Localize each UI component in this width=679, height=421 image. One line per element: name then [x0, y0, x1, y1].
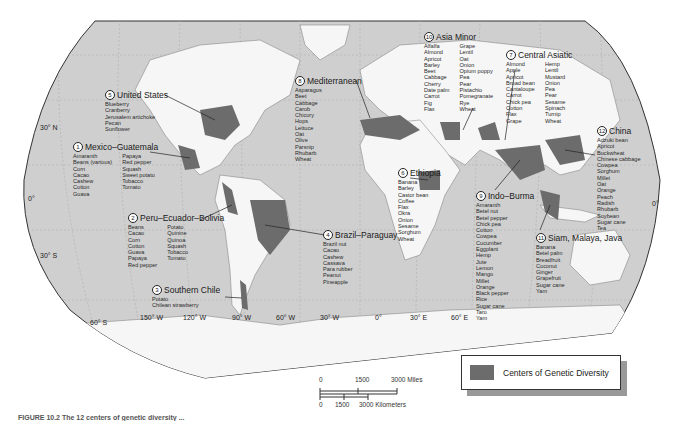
crop-name: Flax [424, 106, 450, 112]
crop-list: GrapeLentilOatOnionOpium poppyPeaPearPis… [460, 43, 494, 112]
figure-caption: FIGURE 10.2 The 12 centers of genetic di… [18, 414, 185, 421]
lon-60w-label: 60° W [276, 314, 295, 321]
center-indo-burma: 9Indo–Burma AmaranthBetel nutBetel peppe… [476, 191, 534, 322]
center-siam-malaya-java: 11Siam, Malaya, Java BananaBetel palmBre… [536, 233, 622, 294]
lat-30s-label: 30° S [40, 252, 57, 259]
crop-name: Red pepper [128, 262, 157, 268]
crop-list: BeansCacaoCornCottonGuavaPapayaRed peppe… [128, 224, 157, 268]
crop-name: Tea [597, 225, 641, 231]
center-number-badge: 6 [398, 168, 408, 178]
crop-name: Pineapple [323, 279, 397, 285]
crop-list: AlmondAppleApricotBroad beanCantaloupeCa… [506, 61, 535, 124]
center-number-badge: 7 [506, 50, 516, 60]
center-number-badge: 5 [105, 90, 115, 100]
crop-list: HempLentilMustardOnionPeaPearSesameSpina… [545, 61, 566, 124]
crop-name: Wheat [398, 236, 441, 242]
crop-list: Adzuki beanApricotBuckwheatChinese cabba… [597, 137, 641, 231]
center-peru-ecuador-bolivia: 2Peru–Ecuador–Bolivia BeansCacaoCornCott… [128, 213, 224, 268]
crop-name: Tomato [167, 255, 188, 261]
crop-list: PotatoChilean strawberry [152, 296, 220, 309]
center-mediterranean: 8Mediterranean AsparagusBeetCabbageCarob… [295, 76, 362, 163]
lat-30n-label: 30° N [40, 124, 58, 131]
lon-60e-label: 60° E [451, 314, 468, 321]
crop-name: Guava [73, 191, 112, 197]
crop-name: Wheat [545, 118, 566, 124]
center-asia-minor: 10Asia Minor AlfalfaAlmondApricotBarleyB… [424, 32, 493, 112]
lat-60s-label: 60° S [90, 319, 107, 326]
center-ethiopia: 6Ethiopia BananaBarleyCastor beanCoffeeF… [398, 168, 441, 242]
center-central-asiatic: 7Central Asiatic AlmondAppleApricotBroad… [506, 50, 572, 124]
crop-name: Beans (various) [73, 159, 112, 165]
crop-name: Red pepper [122, 159, 155, 165]
crop-name: Wheat [295, 156, 362, 162]
crop-list: BananaBetel palmBreadfruitCoconutGingerG… [536, 244, 622, 294]
crop-name: Pomegranate [460, 93, 494, 99]
center-number-badge: 1 [73, 142, 83, 152]
center-mexico-guatemala: 1Mexico–Guatemala AmaranthBeans (various… [73, 142, 158, 197]
scale-bar-graphic [319, 388, 399, 400]
lon-30w-label: 30° W [320, 314, 339, 321]
crop-name: Wheat [460, 106, 494, 112]
crop-name: Tomato [122, 184, 155, 190]
lat-0-right-label: 0° [652, 200, 659, 207]
center-brazil-paraguay: 4Brazil–Paraguay Brazil nutCacaoCashewCa… [323, 230, 397, 285]
crop-name: Chilean strawberry [152, 302, 220, 308]
crop-name: Mustard [545, 74, 566, 80]
crop-list: AmaranthBeans (various)CornCacaoCashewCo… [73, 153, 112, 197]
lon-90w-label: 90° W [232, 314, 251, 321]
scale-bar: 0 1500 3000 Miles 0 1500 3000 Kilometers [319, 376, 459, 411]
crop-name: Cabbage [424, 74, 450, 80]
legend-swatch [470, 365, 494, 380]
crop-list: AlfalfaAlmondApricotBarleyBeetCabbageChe… [424, 43, 450, 112]
lat-0-label: 0° [28, 195, 35, 202]
crop-list: BananaBarleyCastor beanCoffeeFlaxOkraOni… [398, 179, 441, 242]
lon-30e-label: 30° E [410, 314, 427, 321]
crop-name: Sunflower [105, 126, 168, 132]
crop-list: AsparagusBeetCabbageCarobChicoryHopsLett… [295, 87, 362, 163]
crop-name: Quinoa [167, 237, 188, 243]
lon-0-label: 0° [375, 314, 382, 321]
crop-name: Yam [536, 288, 622, 294]
legend-label: Centers of Genetic Diversity [503, 368, 609, 378]
crop-list: PapayaRed pepperSquashSweet potatoTobacc… [122, 153, 155, 197]
center-china: 12China Adzuki beanApricotBuckwheatChine… [597, 126, 641, 231]
center-number-badge: 2 [128, 213, 138, 223]
center-united-states: 5United States BlueberryCranberryJerusal… [105, 90, 168, 132]
crop-list: Brazil nutCacaoCashewCassavaPara rubberP… [323, 241, 397, 285]
crop-list: BlueberryCranberryJerusalem artichokePec… [105, 101, 168, 132]
center-number-badge: 11 [536, 233, 546, 243]
center-number-badge: 12 [597, 126, 607, 136]
center-number-badge: 9 [476, 191, 486, 201]
crop-list: AmaranthBetel nutBetel pepperChick peaCo… [476, 202, 534, 322]
crop-name: Yam [476, 315, 534, 321]
lon-120w-label: 120° W [183, 314, 206, 321]
center-number-badge: 3 [152, 285, 162, 295]
center-number-badge: 4 [323, 230, 333, 240]
map-legend: Centers of Genetic Diversity [461, 355, 621, 390]
lon-150w-label: 150° W [140, 314, 163, 321]
center-southern-chile: 3Southern Chile PotatoChilean strawberry [152, 285, 220, 309]
crop-name: Grape [506, 118, 535, 124]
crop-list: PotatoQuinineQuinoaSquashTobaccoTomato [167, 224, 188, 268]
center-number-badge: 8 [295, 76, 305, 86]
center-number-badge: 10 [424, 32, 434, 42]
crop-name: Quinine [167, 230, 188, 236]
